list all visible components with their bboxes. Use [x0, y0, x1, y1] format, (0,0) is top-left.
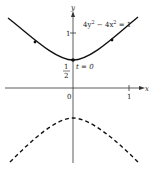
- x-tick-label: 1: [127, 93, 131, 101]
- vertex-fraction-numerator: 1: [64, 63, 68, 71]
- equation-part-c: = 1: [117, 21, 132, 29]
- hyperbola-diagram: y x 0 1 1 4y2 − 4x2 = 1 1 2 t = 0: [0, 0, 151, 169]
- equation-part-a: 4y: [83, 21, 91, 29]
- origin-label: 0: [67, 93, 71, 101]
- y-axis-label: y: [70, 4, 76, 12]
- equation-part-b: − 4x: [95, 21, 114, 29]
- x-axis-label: x: [145, 85, 149, 93]
- vertex-point: [71, 58, 75, 62]
- vertex-fraction-denominator: 2: [64, 72, 68, 80]
- equation-label: 4y2 − 4x2 = 1: [83, 19, 131, 29]
- lower-branch-curve: [10, 118, 138, 162]
- curve-point-left: [34, 41, 37, 44]
- vertex-param-label: t = 0: [76, 63, 94, 71]
- curve-point-right: [111, 39, 114, 42]
- y-tick-label: 1: [66, 30, 70, 38]
